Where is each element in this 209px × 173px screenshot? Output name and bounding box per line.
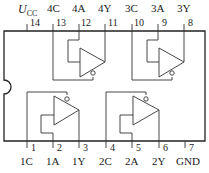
bottom-pin-stubs (27, 141, 185, 148)
supply-label: UCC (18, 2, 37, 18)
pin-label-10: 3C (125, 2, 138, 14)
gate-3-inversion-bubble (170, 71, 174, 75)
pin-number-10: 10 (134, 17, 144, 28)
pin-number-14: 14 (30, 17, 40, 28)
gate-2 (106, 92, 159, 141)
pin-number-5: 5 (136, 142, 141, 153)
pin-label-13: 4C (47, 2, 60, 14)
pin-number-7: 7 (189, 142, 194, 153)
top-labels: UCC 4C 4A 4Y 3C 3A 3Y 14 13 12 11 10 9 8 (18, 2, 193, 28)
gate-4-input-wire (68, 31, 80, 62)
pin-number-4: 4 (110, 142, 115, 153)
pin-label-11: 4Y (98, 2, 112, 14)
pin-number-2: 2 (57, 142, 62, 153)
pin-number-3: 3 (83, 142, 88, 153)
pin-number-9: 9 (162, 17, 167, 28)
gate-4 (53, 31, 105, 80)
pin-number-1: 1 (31, 142, 36, 153)
gate-3 (132, 31, 184, 80)
pin-number-11: 11 (108, 17, 118, 28)
pin-label-4: 2C (99, 155, 112, 167)
top-pin-stubs (27, 24, 184, 31)
pin-label-1: 1C (20, 155, 33, 167)
pin-number-12: 12 (81, 17, 91, 28)
pin-label-8: 3Y (177, 2, 191, 14)
pin-label-7: GND (176, 155, 200, 167)
gate-2-inversion-bubble (144, 97, 148, 101)
pin-label-6: 2Y (152, 155, 166, 167)
gate-1 (27, 92, 79, 141)
pin-number-13: 13 (56, 17, 66, 28)
ic-pinout-diagram: UCC 4C 4A 4Y 3C 3A 3Y 14 13 12 11 10 9 8… (0, 0, 209, 173)
pin-label-12: 4A (72, 2, 86, 14)
pin-label-5: 2A (125, 155, 139, 167)
bottom-labels: 1 2 3 4 5 6 7 1C 1A 1Y 2C 2A 2Y GND (20, 142, 200, 167)
gate-4-inversion-bubble (91, 71, 95, 75)
gate-1-input-wire (41, 115, 54, 141)
pin-label-9: 3A (151, 2, 165, 14)
pin-number-8: 8 (188, 17, 193, 28)
pin-label-2: 1A (46, 155, 60, 167)
ic-body-outline (4, 31, 205, 141)
pin-label-3: 1Y (72, 155, 86, 167)
gate-2-input-wire (120, 115, 133, 141)
gate-3-input-wire (147, 31, 159, 62)
gate-1-inversion-bubble (65, 97, 69, 101)
pin-number-6: 6 (163, 142, 168, 153)
